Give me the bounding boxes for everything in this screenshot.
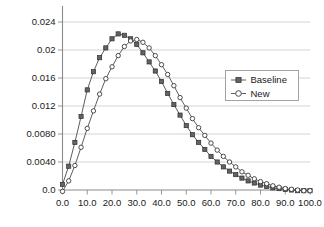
data-point-marker-new — [184, 106, 188, 110]
data-point-marker-new — [264, 182, 268, 186]
line-chart: 0.010.020.030.040.050.060.070.080.090.01… — [0, 0, 324, 227]
y-axis-tick-label: 0.016 — [32, 72, 56, 83]
y-axis-tick-label: 0.0 — [42, 184, 55, 195]
data-point-marker-new — [110, 65, 114, 69]
data-point-marker-new — [159, 62, 163, 66]
data-point-marker-new — [141, 40, 145, 44]
data-point-marker-baseline — [159, 79, 163, 83]
data-point-marker-new — [295, 188, 299, 192]
x-axis-tick-marks — [63, 190, 311, 195]
data-point-marker-new — [128, 39, 132, 43]
data-point-marker-new — [190, 116, 194, 120]
chart-legend[interactable]: BaselineNew — [226, 71, 299, 101]
data-point-marker-baseline — [197, 140, 201, 144]
data-point-marker-new — [104, 77, 108, 81]
data-point-marker-new — [283, 186, 287, 190]
data-point-marker-new — [221, 154, 225, 158]
data-point-marker-new — [308, 189, 312, 193]
data-point-marker-baseline — [135, 42, 139, 46]
data-point-marker-baseline — [79, 114, 83, 118]
data-point-marker-baseline — [60, 182, 64, 186]
y-axis-tick-label: 0.02 — [37, 44, 56, 55]
y-axis-tick-label: 0.0080 — [26, 128, 55, 139]
data-point-marker-new — [79, 145, 83, 149]
data-point-marker-baseline — [240, 176, 244, 180]
data-point-marker-new — [271, 184, 275, 188]
data-point-marker-baseline — [116, 32, 120, 36]
data-point-marker-baseline — [141, 51, 145, 55]
y-axis-tick-label: 0.024 — [32, 16, 56, 27]
data-point-marker-new — [165, 72, 169, 76]
x-axis-tick-label: 80.0 — [251, 197, 270, 208]
data-point-marker-new — [227, 160, 231, 164]
legend-label-baseline[interactable]: Baseline — [251, 74, 287, 85]
data-point-marker-baseline — [221, 165, 225, 169]
data-point-marker-new — [252, 177, 256, 181]
data-point-marker-new — [172, 84, 176, 88]
x-axis-tick-label: 70.0 — [227, 197, 246, 208]
chart-container: 0.010.020.030.040.050.060.070.080.090.01… — [0, 0, 324, 227]
x-axis-tick-label: 30.0 — [128, 197, 147, 208]
x-axis-tick-label: 40.0 — [152, 197, 171, 208]
data-point-marker-baseline — [147, 60, 151, 64]
data-point-marker-baseline — [153, 69, 157, 73]
data-point-marker-baseline — [203, 147, 207, 151]
data-point-marker-new — [60, 189, 64, 193]
x-axis-tick-label: 60.0 — [202, 197, 221, 208]
data-point-marker-new — [240, 170, 244, 174]
data-point-marker-baseline — [209, 154, 213, 158]
data-point-marker-new — [234, 165, 238, 169]
y-axis-tick-label: 0.0040 — [26, 156, 55, 167]
y-axis-tick-marks — [58, 22, 63, 190]
x-axis-tick-labels: 0.010.020.030.040.050.060.070.080.090.01… — [56, 197, 322, 208]
y-axis-tick-label: 0.012 — [32, 100, 56, 111]
data-point-marker-new — [153, 53, 157, 57]
data-point-marker-new — [196, 126, 200, 130]
data-point-marker-baseline — [122, 33, 126, 37]
y-axis-tick-labels: 0.00.00400.00800.0120.0160.020.024 — [26, 16, 55, 195]
data-point-marker-baseline — [178, 113, 182, 117]
x-axis-tick-label: 50.0 — [177, 197, 196, 208]
x-axis-tick-label: 0.0 — [56, 197, 69, 208]
x-axis-tick-label: 10.0 — [78, 197, 97, 208]
data-point-marker-new — [209, 141, 213, 145]
data-point-marker-new — [147, 46, 151, 50]
data-point-marker-baseline — [67, 164, 71, 168]
data-point-marker-new — [289, 187, 293, 191]
legend-marker-baseline — [236, 77, 241, 82]
data-point-marker-baseline — [184, 124, 188, 128]
data-point-marker-baseline — [234, 173, 238, 177]
data-point-marker-new — [122, 44, 126, 48]
data-point-marker-new — [203, 133, 207, 137]
data-point-marker-new — [73, 163, 77, 167]
data-point-marker-baseline — [91, 70, 95, 74]
data-point-marker-new — [246, 173, 250, 177]
data-point-marker-new — [66, 179, 70, 183]
data-point-marker-new — [215, 148, 219, 152]
data-point-marker-baseline — [98, 56, 102, 60]
x-axis-tick-label: 20.0 — [103, 197, 122, 208]
legend-marker-new — [236, 91, 242, 97]
data-point-marker-baseline — [246, 179, 250, 183]
data-point-marker-baseline — [110, 37, 114, 41]
data-point-marker-new — [116, 53, 120, 57]
data-point-marker-baseline — [252, 181, 256, 185]
data-point-marker-new — [135, 37, 139, 41]
data-point-marker-new — [277, 185, 281, 189]
data-point-marker-new — [258, 179, 262, 183]
data-point-marker-new — [91, 109, 95, 113]
data-point-marker-new — [97, 92, 101, 96]
data-point-marker-baseline — [190, 133, 194, 137]
data-point-marker-baseline — [215, 160, 219, 164]
data-point-marker-baseline — [227, 169, 231, 173]
data-point-marker-baseline — [104, 46, 108, 50]
legend-label-new[interactable]: New — [251, 88, 270, 99]
data-point-marker-baseline — [166, 91, 170, 95]
data-series — [60, 32, 312, 194]
x-axis-tick-label: 90.0 — [276, 197, 295, 208]
data-point-marker-new — [302, 189, 306, 193]
x-axis-tick-label: 100.0 — [298, 197, 322, 208]
series-line-new — [63, 40, 311, 192]
data-point-marker-new — [178, 95, 182, 99]
data-point-marker-baseline — [172, 103, 176, 107]
